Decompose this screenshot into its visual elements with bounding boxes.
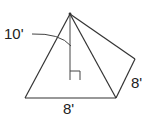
apex-point — [69, 13, 72, 16]
height-label-leader — [32, 34, 71, 46]
edge-apex-to-back-right — [70, 14, 135, 59]
edge-apex-to-front-right — [70, 14, 116, 98]
base-front-label: 8' — [63, 101, 74, 116]
height-label: 10' — [4, 26, 24, 41]
edge-apex-to-front-left — [25, 14, 70, 98]
base-side-label: 8' — [131, 75, 142, 90]
pyramid-diagram: 10' 8' 8' — [0, 0, 151, 120]
pyramid-figure — [0, 0, 151, 120]
right-angle-marker — [70, 71, 80, 80]
